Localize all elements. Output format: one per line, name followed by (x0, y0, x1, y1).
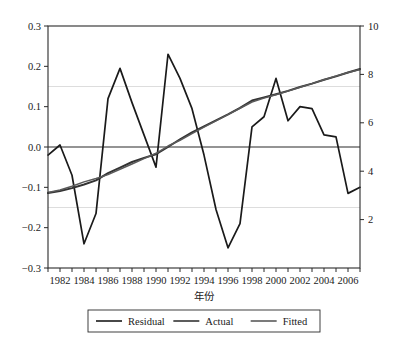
y-axis-left-tick-label: 0.2 (28, 61, 41, 72)
y-axis-left-tick-label: −0.1 (22, 182, 41, 193)
y-axis-left-tick-label: 0.3 (28, 21, 41, 32)
x-axis-title: 年份 (194, 290, 215, 302)
line-chart: −0.3−0.2−0.10.00.10.20.3 246810 19821984… (0, 0, 408, 350)
x-axis-tick-label: 1986 (98, 275, 119, 286)
x-axis-tick-label: 2004 (314, 275, 336, 286)
y-axis-left-tick-label: 0.1 (28, 101, 41, 112)
x-axis-tick-label: 1990 (146, 275, 167, 286)
x-axis-tick-label: 2000 (266, 275, 287, 286)
y-axis-right-tick-label: 4 (368, 166, 374, 177)
x-axis-tick-label: 1998 (242, 275, 263, 286)
x-axis-tick-label: 2006 (338, 275, 359, 286)
x-axis-tick-label: 1982 (50, 275, 71, 286)
chart-container: −0.3−0.2−0.10.00.10.20.3 246810 19821984… (0, 0, 408, 350)
x-axis-tick-label: 2002 (290, 275, 311, 286)
legend-label-residual: Residual (128, 316, 165, 327)
y-axis-left-tick-label: 0.0 (28, 142, 41, 153)
y-axis-right-tick-label: 8 (368, 69, 373, 80)
legend-label-fitted: Fitted (283, 316, 308, 327)
x-axis-tick-label: 1994 (194, 275, 216, 286)
x-axis-tick-label: 1988 (122, 275, 143, 286)
y-axis-right-tick-label: 10 (368, 21, 379, 32)
y-axis-right-tick-label: 2 (368, 214, 373, 225)
y-axis-right-tick-label: 6 (368, 117, 373, 128)
y-axis-left-tick-label: −0.3 (22, 263, 41, 274)
chart-legend: ResidualActualFitted (88, 310, 320, 332)
x-axis-tick-label: 1996 (218, 275, 239, 286)
x-axis-tick-label: 1992 (170, 275, 191, 286)
y-axis-left-tick-label: −0.2 (22, 222, 41, 233)
x-axis-tick-label: 1984 (74, 275, 96, 286)
legend-label-actual: Actual (205, 316, 233, 327)
